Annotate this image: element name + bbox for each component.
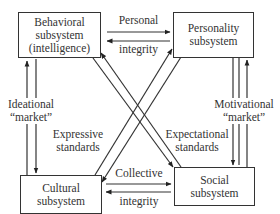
motivational-line-2: “market” <box>208 111 280 124</box>
cultural-line-2: subsystem <box>37 195 85 208</box>
integrity-label-bottom: integrity <box>107 195 171 208</box>
personality-line-2: subsystem <box>190 35 238 48</box>
personality-subsystem-box: Personality subsystem <box>173 12 254 58</box>
personality-line-1: Personality <box>188 22 240 35</box>
ideational-line-1: Ideational <box>0 98 62 111</box>
expectational-line-2: standards <box>164 141 230 154</box>
cultural-subsystem-box: Cultural subsystem <box>20 175 102 214</box>
motivational-line-1: Motivational <box>208 98 280 111</box>
expressive-line-2: standards <box>52 141 104 154</box>
expressive-standards-label: Expressive standards <box>52 128 104 154</box>
four-subsystems-diagram: Behavioral subsystem (intelligence) Pers… <box>0 0 280 214</box>
behavioral-subsystem-box: Behavioral subsystem (intelligence) <box>18 12 101 58</box>
ideational-line-2: “market” <box>0 111 62 124</box>
collective-label: Collective <box>107 167 171 180</box>
expectational-line-1: Expectational <box>164 128 230 141</box>
cultural-to-personality-arrow <box>95 49 172 175</box>
expressive-line-1: Expressive <box>52 128 104 141</box>
personal-label: Personal <box>107 14 170 27</box>
social-line-2: subsystem <box>191 187 239 200</box>
behavioral-line-3: (intelligence) <box>29 42 90 55</box>
cultural-line-1: Cultural <box>42 182 80 195</box>
social-line-1: Social <box>200 174 229 187</box>
integrity-label-top: integrity <box>107 43 170 56</box>
behavioral-line-1: Behavioral <box>34 16 84 29</box>
behavioral-line-2: subsystem <box>36 29 84 42</box>
ideational-market-label: Ideational “market” <box>0 98 62 124</box>
personality-to-cultural-arrow <box>102 57 181 182</box>
social-subsystem-box: Social subsystem <box>174 167 255 206</box>
motivational-market-label: Motivational “market” <box>208 98 280 124</box>
expectational-standards-label: Expectational standards <box>164 128 230 154</box>
